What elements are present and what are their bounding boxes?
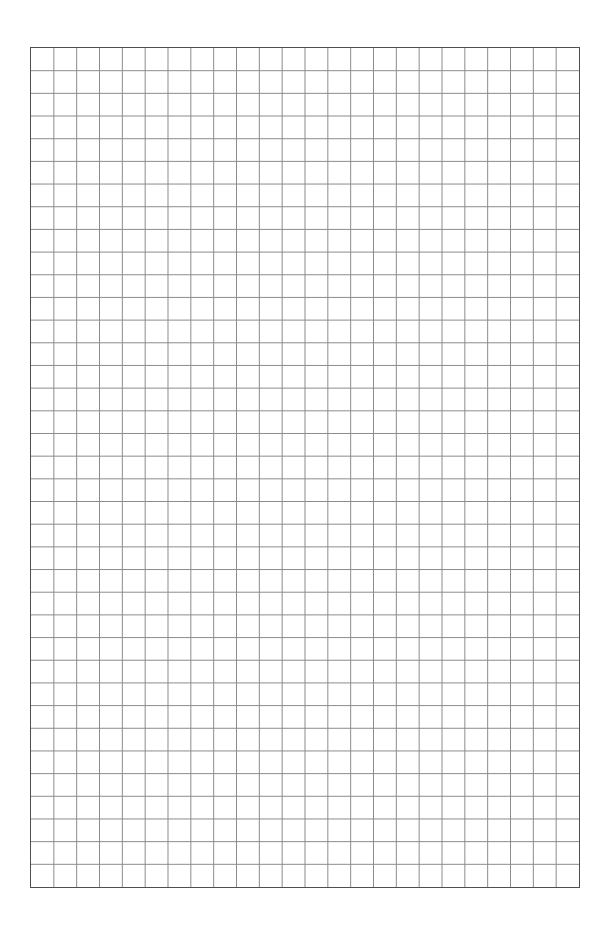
graph-paper-page bbox=[0, 0, 611, 943]
grid-lines bbox=[31, 48, 579, 887]
graph-grid bbox=[30, 47, 580, 888]
